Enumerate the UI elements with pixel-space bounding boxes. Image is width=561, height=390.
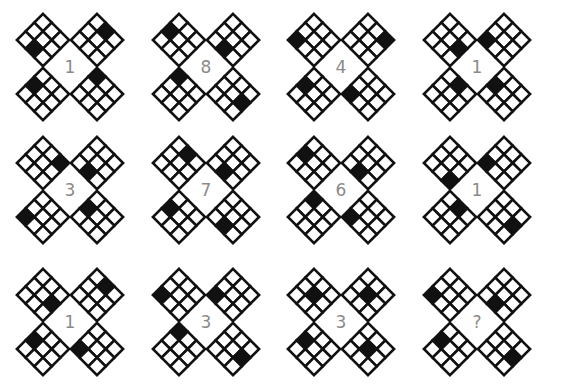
figure-number-label: 1 [55,312,85,332]
puzzle-figure: ? [422,267,532,377]
puzzle-figure: 6 [286,135,396,245]
figure-number-label: 7 [191,180,221,200]
question-mark-label: ? [462,312,492,332]
puzzle-figure: 1 [15,12,125,122]
puzzle-figure: 3 [15,135,125,245]
figure-number-label: 1 [55,57,85,77]
figure-number-label: 1 [462,180,492,200]
puzzle-figure: 3 [286,267,396,377]
puzzle-figure: 7 [151,135,261,245]
figure-number-label: 3 [191,312,221,332]
figure-number-label: 3 [326,312,356,332]
figure-number-label: 8 [191,57,221,77]
figure-number-label: 6 [326,180,356,200]
puzzle-figure: 1 [422,135,532,245]
puzzle-figure: 3 [151,267,261,377]
puzzle-figure: 4 [286,12,396,122]
puzzle-figure: 1 [15,267,125,377]
figure-number-label: 4 [326,57,356,77]
puzzle-figure: 8 [151,12,261,122]
puzzle-figure: 1 [422,12,532,122]
figure-number-label: 3 [55,180,85,200]
figure-number-label: 1 [462,57,492,77]
